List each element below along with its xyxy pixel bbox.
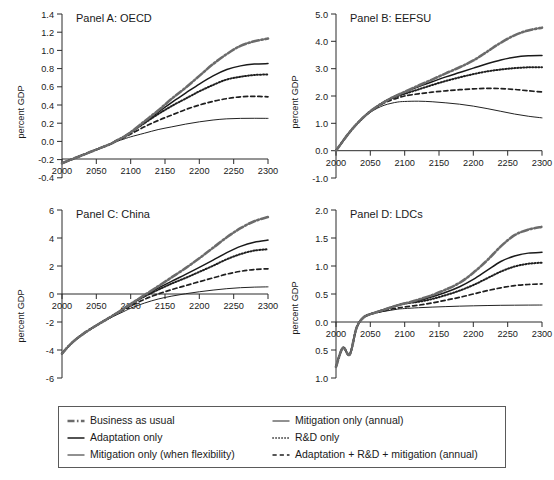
panel-d-ytick-5: 0.5	[315, 346, 328, 356]
panel-d: percent GDP Panel D: LDCs 2.0 1.5 1.0 0.…	[274, 196, 554, 401]
panel-d-ytick-2: 1.0	[315, 262, 328, 272]
panel-a-ytick-7: 0.0	[41, 137, 54, 147]
panel-a: percent GDP Panel A: OECD 1.4 1.2 1.0	[0, 0, 280, 200]
panel-c-series	[62, 217, 268, 354]
curve-adaptation-r-d-mitigation-annual	[336, 88, 542, 150]
panel-d-plot: percent GDP Panel D: LDCs 2.0 1.5 1.0 0.…	[274, 196, 554, 401]
panel-b-ytick-3: 2.0	[315, 92, 328, 102]
panel-c-xtick-0: 2000	[52, 301, 72, 311]
panel-a-xtick-5: 2250	[223, 166, 243, 176]
panel-c-ytick-1: 4	[49, 234, 54, 244]
panel-b-title: Panel B: EEFSU	[350, 12, 431, 24]
panel-b-xtick-4: 2200	[463, 158, 483, 168]
panel-c-xticks: 2000 2050 2100 2150 2200 2250 2300	[52, 294, 278, 311]
panel-d-ytick-3: 0.5	[315, 290, 328, 300]
panel-a-axes	[62, 14, 268, 178]
panel-c-ytick-6: -6	[46, 374, 54, 384]
panel-a-ytick-5: 0.4	[41, 101, 54, 111]
legend-label: Adaptation + R&D + mitigation (annual)	[295, 449, 478, 460]
legend-swatch-icon	[67, 450, 85, 460]
panel-a-xtick-3: 2150	[155, 166, 175, 176]
panel-a-xtick-4: 2200	[189, 166, 209, 176]
panel-d-xtick-5: 2250	[497, 329, 517, 339]
panel-a-title: Panel A: OECD	[76, 12, 152, 24]
panel-a-ytick-2: 1.0	[41, 46, 54, 56]
legend-item-adaptation-only[interactable]: Adaptation only	[67, 432, 272, 443]
panel-a-plot: percent GDP Panel A: OECD 1.4 1.2 1.0	[0, 0, 280, 200]
panel-c-ytick-0: 6	[49, 206, 54, 216]
curve-adaptation-only	[336, 56, 542, 151]
legend-item-r-d-only[interactable]: R&D only	[272, 432, 497, 443]
figure-four-panel-chart: percent GDP Panel A: OECD 1.4 1.2 1.0	[0, 0, 554, 480]
panel-a-xtick-2: 2100	[120, 166, 140, 176]
legend-item-business-as-usual[interactable]: Business as usual	[67, 415, 272, 426]
panel-b-xtick-3: 2150	[429, 158, 449, 168]
panel-a-ytick-4: 0.6	[41, 82, 54, 92]
panel-d-ytick-6: 1.0	[315, 374, 328, 384]
legend-swatch-icon	[67, 433, 85, 443]
panel-b-series	[336, 28, 542, 151]
curve-business-as-usual	[62, 39, 268, 164]
panel-a-ytick-8: -0.2	[38, 155, 54, 165]
panel-b-xtick-1: 2050	[360, 158, 380, 168]
panel-a-ytick-1: 1.2	[41, 28, 54, 38]
panel-d-xtick-3: 2150	[429, 329, 449, 339]
panel-b-plot: percent GDP Panel B: EEFSU 5.0 4.0 3.0 2…	[274, 0, 554, 200]
panel-a-yaxis-title: percent GDP	[16, 85, 26, 138]
panel-a-ytick-3: 0.8	[41, 64, 54, 74]
panel-d-yaxis-title: percent GDP	[290, 281, 300, 334]
panel-d-yticks: 2.0 1.5 1.0 0.5 0.0 0.5 1.0	[315, 206, 336, 384]
legend-item-mitigation-only-annual[interactable]: Mitigation only (annual)	[272, 415, 497, 426]
panel-b-ytick-1: 4.0	[315, 37, 328, 47]
legend-swatch-icon	[272, 433, 290, 443]
panel-d-title: Panel D: LDCs	[350, 208, 423, 220]
panel-d-xtick-1: 2050	[360, 329, 380, 339]
panel-d-xtick-2: 2100	[394, 329, 414, 339]
panel-c: percent GDP Panel C: China 6 4 2 0 -2 -4	[0, 196, 280, 401]
curve-mitigation-only-when-flexibility	[336, 101, 542, 150]
panel-b-xtick-2: 2100	[394, 158, 414, 168]
legend-item-adaptation-r-d-mitigation-annual[interactable]: Adaptation + R&D + mitigation (annual)	[272, 449, 497, 460]
legend-label: Adaptation only	[90, 432, 162, 443]
panel-d-xtick-4: 2200	[463, 329, 483, 339]
panel-b-ytick-5: 0.0	[315, 146, 328, 156]
panel-d-ytick-4: 0.0	[315, 318, 328, 328]
panel-b-ytick-4: 1.0	[315, 119, 328, 129]
panel-b-xtick-5: 2250	[497, 158, 517, 168]
panel-a-xticks: 2000 2050 2100 2150 2200 2250 2300	[52, 159, 278, 176]
panel-a-yticks: 1.4 1.2 1.0 0.8 0.6 0.4 0.2 0.0 -0.2 -0.…	[38, 10, 62, 184]
panel-c-xtick-1: 2050	[86, 301, 106, 311]
panel-a-series	[62, 39, 268, 164]
panel-b-ytick-2: 3.0	[315, 64, 328, 74]
curve-mitigation-only-when-flexibility	[62, 118, 268, 163]
legend-label: Business as usual	[90, 415, 175, 426]
panel-d-xtick-0: 2000	[326, 329, 346, 339]
panel-a-xtick-0: 2000	[52, 166, 72, 176]
panel-c-yaxis-title: percent GDP	[16, 289, 26, 342]
panel-b-ytick-0: 5.0	[315, 10, 328, 20]
panel-a-ytick-0: 1.4	[41, 10, 54, 20]
panel-c-ytick-5: -4	[46, 346, 54, 356]
panel-c-xtick-5: 2250	[223, 301, 243, 311]
panel-c-xtick-3: 2150	[155, 301, 175, 311]
panel-a-xtick-1: 2050	[86, 166, 106, 176]
legend: Business as usualMitigation only (annual…	[58, 406, 506, 468]
panel-d-ytick-0: 2.0	[315, 206, 328, 216]
legend-grid: Business as usualMitigation only (annual…	[59, 407, 505, 467]
panel-c-yticks: 6 4 2 0 -2 -4 -6	[46, 206, 62, 384]
panel-c-title: Panel C: China	[76, 208, 151, 220]
legend-label: Mitigation only (annual)	[295, 415, 404, 426]
curve-adaptation-only	[62, 64, 268, 164]
panel-d-xtick-6: 2300	[532, 329, 552, 339]
panel-c-ytick-3: 0	[49, 290, 54, 300]
panel-b: percent GDP Panel B: EEFSU 5.0 4.0 3.0 2…	[274, 0, 554, 200]
legend-item-mitigation-only-when-flexibility[interactable]: Mitigation only (when flexibility)	[67, 449, 272, 460]
panel-b-xtick-0: 2000	[326, 158, 346, 168]
panel-b-yaxis-title: percent GDP	[290, 75, 300, 128]
legend-label: Mitigation only (when flexibility)	[90, 449, 235, 460]
panel-c-ytick-2: 2	[49, 262, 54, 272]
panel-b-ytick-6: -1.0	[312, 174, 328, 184]
legend-swatch-icon	[272, 416, 290, 426]
panel-d-ytick-1: 1.5	[315, 234, 328, 244]
panel-c-xtick-4: 2200	[189, 301, 209, 311]
